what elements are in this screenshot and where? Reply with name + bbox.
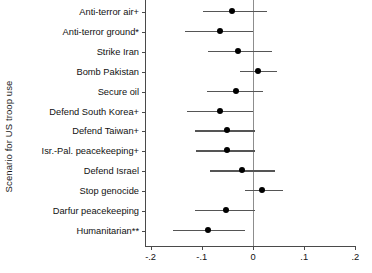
data-row xyxy=(145,164,372,178)
point-estimate-marker xyxy=(217,108,223,114)
point-estimate-marker xyxy=(239,167,245,173)
x-axis-tick xyxy=(151,246,152,250)
x-axis-tick-label: 0 xyxy=(238,252,268,262)
category-label: Bomb Pakistan xyxy=(76,65,139,79)
data-row xyxy=(145,204,372,218)
data-row xyxy=(145,85,372,99)
data-row xyxy=(145,45,372,59)
data-row xyxy=(145,144,372,158)
category-label: Stop genocide xyxy=(80,184,139,198)
point-estimate-marker xyxy=(223,207,229,213)
y-axis-title: Scenario for US troop use xyxy=(0,0,16,273)
data-row xyxy=(145,105,372,119)
category-label: Secure oil xyxy=(98,85,139,99)
category-label: Strike Iran xyxy=(97,45,139,59)
forest-plot-chart: Scenario for US troop use Anti-terror ai… xyxy=(0,0,372,273)
data-row xyxy=(145,65,372,79)
category-label: Humanitarian** xyxy=(76,224,139,238)
category-label: Darfur peacekeeping xyxy=(53,204,139,218)
data-row xyxy=(145,5,372,19)
point-estimate-marker xyxy=(224,127,230,133)
point-estimate-marker xyxy=(217,28,223,34)
point-estimate-marker xyxy=(255,68,261,74)
x-axis-tick xyxy=(355,246,356,250)
x-axis-tick xyxy=(304,246,305,250)
point-estimate-marker xyxy=(224,147,230,153)
point-estimate-marker xyxy=(235,48,241,54)
x-axis: -.2-.10.1.2 xyxy=(145,246,372,273)
plot-area xyxy=(145,0,372,246)
point-estimate-marker xyxy=(259,187,265,193)
x-axis-tick-label: .1 xyxy=(289,252,319,262)
category-label: Defend Israel xyxy=(84,164,139,178)
point-estimate-marker xyxy=(229,8,235,14)
data-row xyxy=(145,124,372,138)
category-label: Defend Taiwan+ xyxy=(72,124,139,138)
y-axis-category-labels: Anti-terror air+Anti-terror ground*Strik… xyxy=(16,0,144,246)
point-estimate-marker xyxy=(233,88,239,94)
x-axis-tick xyxy=(202,246,203,250)
category-label: Defend South Korea+ xyxy=(49,105,139,119)
point-estimate-marker xyxy=(205,227,211,233)
x-axis-line xyxy=(145,246,356,247)
category-label: Isr.-Pal. peacekeeping+ xyxy=(42,144,139,158)
category-label: Anti-terror air+ xyxy=(79,5,139,19)
x-axis-tick-label: -.1 xyxy=(187,252,217,262)
category-label: Anti-terror ground* xyxy=(63,25,139,39)
data-row xyxy=(145,184,372,198)
x-axis-tick-label: .2 xyxy=(340,252,370,262)
data-row xyxy=(145,224,372,238)
x-axis-tick-label: -.2 xyxy=(136,252,166,262)
x-axis-tick xyxy=(253,246,254,250)
data-row xyxy=(145,25,372,39)
